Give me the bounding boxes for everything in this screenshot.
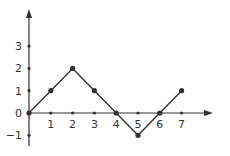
data-point bbox=[135, 133, 140, 138]
x-tick-label: 5 bbox=[135, 118, 142, 131]
x-axis-arrow-icon bbox=[204, 110, 213, 116]
data-point bbox=[26, 110, 31, 115]
x-tick-dot bbox=[71, 111, 74, 114]
y-tick-label: 2 bbox=[15, 62, 22, 75]
x-tick-dot bbox=[180, 111, 183, 114]
y-tick-dot bbox=[27, 134, 30, 137]
x-tick-label: 1 bbox=[47, 118, 54, 131]
line-chart: 1234567−10123 bbox=[0, 0, 230, 156]
x-tick-label: 6 bbox=[156, 118, 163, 131]
y-tick-label: 0 bbox=[15, 107, 22, 120]
data-point bbox=[179, 88, 184, 93]
y-tick-label: 1 bbox=[15, 85, 22, 98]
x-tick-dot bbox=[136, 111, 139, 114]
y-tick-dot bbox=[27, 67, 30, 70]
x-tick-label: 4 bbox=[113, 118, 120, 131]
data-point bbox=[70, 66, 75, 71]
y-tick-dot bbox=[27, 89, 30, 92]
x-tick-dot bbox=[93, 111, 96, 114]
data-point bbox=[48, 88, 53, 93]
y-tick-label: −1 bbox=[6, 129, 22, 142]
x-tick-label: 3 bbox=[91, 118, 98, 131]
data-point bbox=[92, 88, 97, 93]
x-tick-label: 7 bbox=[178, 118, 185, 131]
data-point bbox=[157, 110, 162, 115]
x-tick-label: 2 bbox=[69, 118, 76, 131]
y-axis-arrow-icon bbox=[26, 9, 32, 18]
y-tick-label: 3 bbox=[15, 40, 22, 53]
data-point bbox=[114, 110, 119, 115]
x-tick-dot bbox=[49, 111, 52, 114]
y-tick-dot bbox=[27, 45, 30, 48]
